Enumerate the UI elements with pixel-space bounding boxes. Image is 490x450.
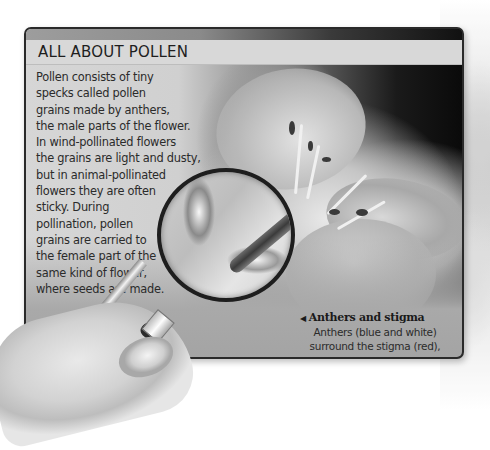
magnifying-glass-icon (157, 168, 295, 302)
body-line: In wind-pollinated flowers (36, 135, 176, 149)
caption-line: the tip of the flower's female (286, 354, 464, 359)
body-line: the male parts of the flower. (36, 119, 191, 133)
body-line: specks called pollen (36, 86, 146, 100)
body-line: grains made by anthers, (36, 103, 170, 117)
anther (356, 209, 368, 216)
anther (322, 157, 331, 162)
left-arrow-icon: ◀ (300, 313, 306, 323)
body-line: sticky. During (36, 200, 109, 214)
magnified-stamen (227, 207, 295, 276)
body-line: but in animal-pollinated (36, 168, 166, 182)
body-line: Pollen consists of tiny (36, 70, 154, 84)
body-line: where seeds are made. (36, 282, 164, 296)
caption-line: surround the stigma (red), (286, 339, 464, 353)
anther (289, 121, 295, 135)
panel-title: ALL ABOUT POLLEN (38, 43, 188, 61)
caption-line: Anthers (blue and white) (286, 325, 464, 339)
caption-heading: ◀Anthers and stigma (286, 311, 464, 325)
anther (308, 141, 313, 151)
caption-heading-text: Anthers and stigma (309, 311, 425, 324)
body-line: grains are carried to (36, 233, 147, 247)
image-caption: ◀Anthers and stigma Anthers (blue and wh… (286, 311, 464, 359)
body-line: the grains are light and dusty, (36, 151, 201, 165)
body-line: pollination, pollen (36, 217, 133, 231)
anther (329, 209, 340, 215)
body-line: flowers they are often (36, 184, 156, 198)
panel-top-strip (26, 29, 462, 40)
title-bar: ALL ABOUT POLLEN (26, 40, 462, 65)
